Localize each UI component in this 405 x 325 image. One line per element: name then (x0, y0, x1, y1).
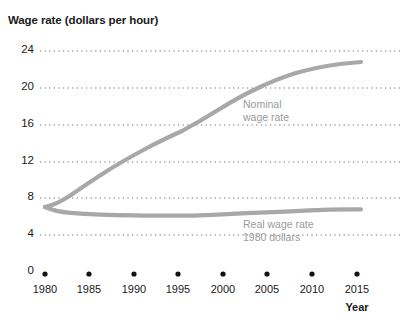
series-label-nominal-line2: wage rate (243, 111, 289, 124)
x-tick-label-2005: 2005 (244, 283, 290, 295)
x-tick-label-1995: 1995 (155, 283, 201, 295)
x-tick-label-2015: 2015 (334, 283, 380, 295)
x-tick-1980 (42, 271, 47, 276)
y-tick-label-12: 12 (8, 154, 34, 166)
plot-area (0, 0, 405, 325)
x-tick-1995 (175, 271, 180, 276)
series-line-real-wage-rate (45, 207, 361, 216)
y-tick-label-4: 4 (8, 227, 34, 239)
series-label-real-line2: 1980 dollars (243, 231, 300, 244)
y-tick-label-0: 0 (8, 264, 34, 276)
x-tick-label-1980: 1980 (22, 283, 68, 295)
x-tick-label-1985: 1985 (66, 283, 112, 295)
x-tick-2000 (220, 271, 225, 276)
series-label-real-line1: Real wage rate (243, 218, 314, 231)
x-tick-2015 (354, 271, 359, 276)
series-line-nominal-wage-rate (45, 62, 361, 207)
x-tick-marks-group (42, 271, 359, 276)
y-tick-label-8: 8 (8, 190, 34, 202)
x-tick-2010 (309, 271, 314, 276)
x-tick-2005 (264, 271, 269, 276)
x-tick-1990 (131, 271, 136, 276)
x-tick-label-2010: 2010 (289, 283, 335, 295)
x-tick-label-1990: 1990 (111, 283, 157, 295)
wage-rate-chart: Wage rate (dollars per hour) 24 20 16 12… (0, 0, 405, 325)
y-tick-label-20: 20 (8, 80, 34, 92)
x-tick-label-2000: 2000 (200, 283, 246, 295)
x-axis-title: Year (334, 301, 380, 313)
y-tick-label-16: 16 (8, 117, 34, 129)
y-tick-label-24: 24 (8, 43, 34, 55)
x-tick-1985 (86, 271, 91, 276)
series-label-nominal-line1: Nominal (243, 98, 282, 111)
